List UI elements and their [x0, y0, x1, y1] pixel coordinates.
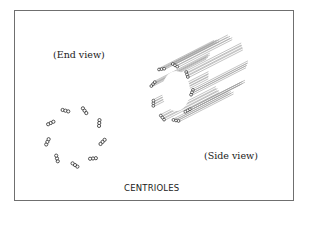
side-view-label: (Side view) — [204, 150, 258, 161]
microtubule — [176, 65, 179, 68]
triplet-end — [172, 119, 180, 123]
end-view-illustration — [45, 107, 107, 168]
microtubule — [159, 114, 162, 117]
microtubule — [152, 99, 155, 102]
microtubule — [190, 93, 193, 96]
triplet — [71, 162, 79, 168]
microtubule — [172, 119, 175, 122]
figure-title: CENTRIOLES — [124, 183, 179, 193]
microtubule — [99, 142, 102, 145]
triplet-end — [190, 88, 195, 96]
microtubule — [55, 154, 58, 157]
microtubule — [186, 76, 189, 79]
end-view-label: (End view) — [53, 49, 105, 60]
microtubule — [163, 67, 166, 70]
tube-edge — [192, 63, 247, 91]
microtubule — [67, 110, 70, 113]
triplet-end — [158, 67, 166, 71]
microtubule — [52, 120, 55, 123]
triplet — [45, 138, 51, 146]
triplet — [61, 108, 70, 113]
tube-edge — [185, 83, 240, 111]
tube-edge — [187, 45, 242, 73]
tube-edge — [175, 38, 230, 66]
triplet — [81, 107, 88, 115]
microtubule — [184, 110, 187, 113]
triplet — [55, 154, 60, 163]
microtubule — [153, 81, 156, 84]
microtubule — [71, 162, 74, 165]
triplet — [47, 120, 55, 126]
lumen — [162, 71, 190, 111]
triplet — [97, 119, 101, 128]
side-view-illustration — [150, 35, 248, 122]
triplet — [88, 157, 97, 161]
tube-edge — [159, 40, 214, 68]
microtubule — [85, 111, 88, 114]
microtubule — [97, 124, 100, 127]
microtubule — [47, 138, 50, 141]
triplet — [99, 138, 106, 145]
microtubule — [88, 157, 91, 160]
triplet-end — [152, 99, 155, 107]
